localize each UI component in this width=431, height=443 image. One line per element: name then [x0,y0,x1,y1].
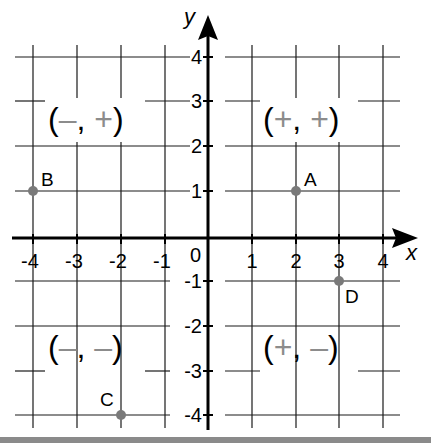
svg-text:-2: -2 [184,315,202,337]
svg-text:(–, +): (–, +) [48,101,124,137]
svg-text:2: 2 [191,135,202,157]
svg-text:(–, –): (–, –) [48,329,123,365]
svg-text:(+, –): (+, –) [263,329,339,365]
svg-text:-1: -1 [184,270,202,292]
coordinate-plane: y x 0 -4 -3 -2 -1 1 2 3 4 4 3 2 1 -1 -2 … [0,0,431,443]
origin-label: 0 [190,244,201,266]
svg-text:1: 1 [191,180,202,202]
bottom-bar [0,437,431,443]
svg-text:3: 3 [191,90,202,112]
svg-text:C: C [100,389,114,410]
svg-text:-3: -3 [65,250,83,272]
y-axis-label: y [182,4,197,29]
svg-text:-2: -2 [109,250,127,272]
svg-text:-4: -4 [184,404,202,426]
svg-text:A: A [304,169,317,190]
svg-text:-1: -1 [153,250,171,272]
quadrant-label-II: (–, +) [48,101,124,137]
point-B: B [28,169,54,196]
svg-text:2: 2 [290,250,301,272]
svg-text:-4: -4 [21,250,39,272]
svg-text:-3: -3 [184,360,202,382]
svg-text:4: 4 [377,250,388,272]
svg-text:(+, +): (+, +) [263,101,339,137]
quadrant-label-IV: (+, –) [263,329,339,365]
svg-text:D: D [345,286,359,307]
svg-text:3: 3 [333,250,344,272]
svg-text:4: 4 [191,46,202,68]
x-axis-label: x [405,240,418,265]
y-tick-labels: 4 3 2 1 -1 -2 -3 -4 [184,46,202,426]
quadrant-label-I: (+, +) [263,101,339,137]
svg-text:B: B [41,169,54,190]
x-tick-labels: -4 -3 -2 -1 1 2 3 4 [21,250,388,272]
svg-text:1: 1 [246,250,257,272]
quadrant-label-III: (–, –) [48,329,123,365]
point-A: A [291,169,317,196]
